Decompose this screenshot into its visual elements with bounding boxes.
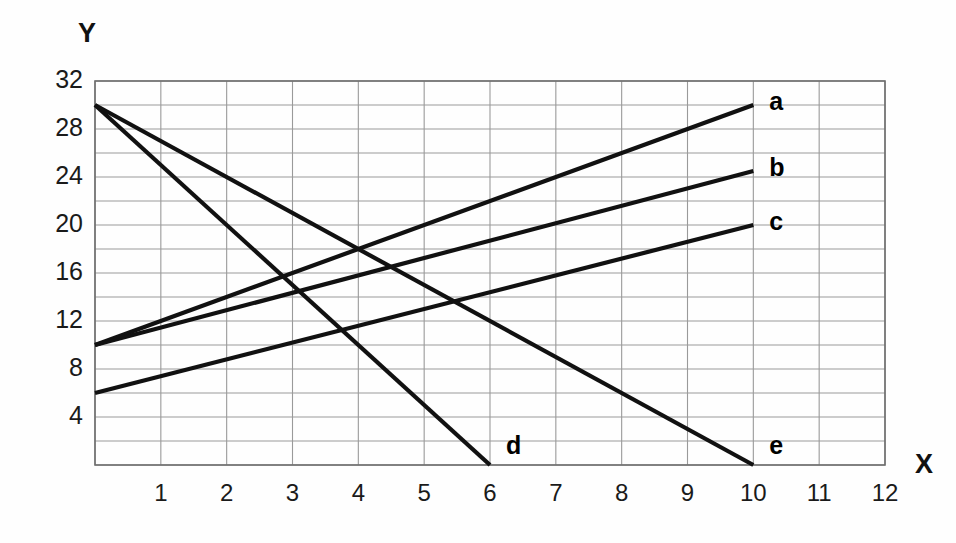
- x-tick-label-1: 1: [143, 479, 179, 507]
- series-label-b: b: [769, 153, 784, 182]
- series-label-a: a: [769, 87, 783, 116]
- chart-canvas: Y X 48121620242832 123456789101112 abcde: [0, 0, 956, 543]
- line-chart-plot: [0, 0, 956, 543]
- x-tick-label-11: 11: [801, 479, 837, 507]
- x-tick-label-8: 8: [604, 479, 640, 507]
- y-tick-label-8: 8: [37, 353, 83, 382]
- y-tick-label-24: 24: [37, 161, 83, 190]
- y-tick-label-12: 12: [37, 305, 83, 334]
- x-tick-label-9: 9: [670, 479, 706, 507]
- series-label-e: e: [769, 431, 783, 460]
- series-label-c: c: [769, 207, 783, 236]
- x-tick-label-12: 12: [867, 479, 903, 507]
- y-tick-label-16: 16: [37, 257, 83, 286]
- gridlines: [95, 81, 885, 465]
- y-tick-label-4: 4: [37, 401, 83, 430]
- x-tick-label-6: 6: [472, 479, 508, 507]
- y-tick-label-28: 28: [37, 113, 83, 142]
- y-tick-label-32: 32: [37, 65, 83, 94]
- x-tick-label-10: 10: [735, 479, 771, 507]
- x-tick-label-5: 5: [406, 479, 442, 507]
- x-tick-label-3: 3: [275, 479, 311, 507]
- series-label-d: d: [506, 431, 521, 460]
- x-tick-label-7: 7: [538, 479, 574, 507]
- y-tick-label-20: 20: [37, 209, 83, 238]
- x-tick-label-2: 2: [209, 479, 245, 507]
- x-tick-label-4: 4: [340, 479, 376, 507]
